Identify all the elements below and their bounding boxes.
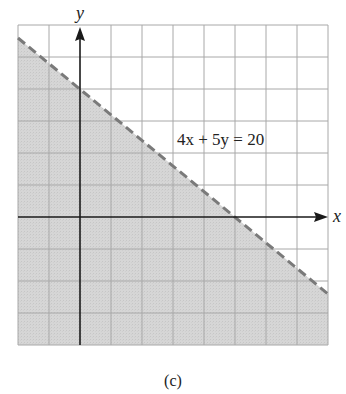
y-axis-arrow-icon: [75, 27, 85, 41]
x-axis-label: x: [332, 206, 341, 226]
graph-of-inequality: y x 4x + 5y = 20: [0, 0, 346, 394]
y-axis-label: y: [74, 3, 84, 23]
equation-label: 4x + 5y = 20: [177, 130, 264, 149]
x-axis-arrow-icon: [314, 212, 328, 222]
figure-caption: (c): [0, 372, 346, 390]
